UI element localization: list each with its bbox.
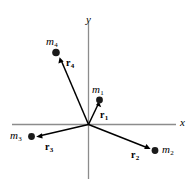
- mass-point-m2: [152, 147, 159, 154]
- vector-label-r3: r3: [45, 142, 53, 152]
- mass-label-m4: m4: [46, 36, 58, 47]
- mass-point-m4: [52, 49, 60, 57]
- vector-label-r2: r2: [131, 150, 139, 160]
- vector-label-r3-subscript: 3: [49, 146, 53, 154]
- mass-label-m2: m2: [162, 144, 174, 155]
- mass-point-m3: [28, 133, 35, 140]
- mass-label-m3: m3: [10, 130, 22, 141]
- mass-label-m2-subscript: 2: [170, 149, 174, 157]
- vector-r3: [36, 125, 88, 139]
- vector-r2: [89, 125, 151, 150]
- vector-label-r1-subscript: 1: [104, 114, 108, 122]
- x-axis-label: x: [180, 117, 185, 128]
- mass-label-m1-subscript: 1: [100, 89, 104, 97]
- vector-label-r1: r1: [100, 110, 108, 120]
- vector-label-r4: r4: [66, 58, 74, 68]
- vector-label-r4-subscript: 4: [70, 62, 74, 70]
- mass-label-m1: m1: [92, 84, 104, 95]
- diagram-canvas: [0, 0, 195, 192]
- y-axis-label: y: [86, 14, 91, 25]
- mass-label-m4-subscript: 4: [54, 41, 58, 49]
- mass-label-m3-subscript: 3: [18, 135, 22, 143]
- vector-diagram-figure: y x m1 m2 m3 m4 r1 r2 r3 r4: [0, 0, 195, 192]
- mass-point-m1: [96, 97, 103, 104]
- vector-label-r2-subscript: 2: [135, 154, 139, 162]
